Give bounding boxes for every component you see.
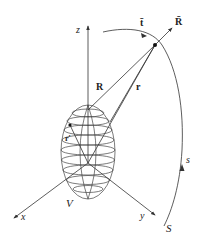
- R-bar-label: R̄: [175, 16, 183, 27]
- axes: [14, 26, 155, 218]
- tangent-arrow-icon: [141, 33, 147, 38]
- R-label: R: [96, 81, 104, 92]
- arc-param-label: s: [186, 154, 190, 165]
- volume-label: V: [66, 197, 74, 209]
- field-point: [153, 43, 157, 47]
- r-prime-label: r′: [65, 134, 71, 143]
- r-vector: [110, 45, 155, 122]
- vectors: [70, 28, 172, 163]
- x-axis: [14, 163, 88, 218]
- curve-S: [103, 29, 182, 226]
- R-vector-from-origin: [88, 45, 155, 110]
- r-label: r: [136, 81, 141, 92]
- curve-label: S: [166, 222, 172, 234]
- x-label: x: [20, 211, 26, 222]
- R-bar-direction: [155, 28, 172, 45]
- t-bar-label: t̄: [140, 17, 144, 28]
- y-label: y: [139, 210, 145, 221]
- z-label: z: [75, 24, 80, 35]
- y-axis: [88, 163, 155, 215]
- diagram-canvas: z x y R r r′ t̄ R̄ V S s: [0, 0, 202, 244]
- source-point: [68, 123, 71, 126]
